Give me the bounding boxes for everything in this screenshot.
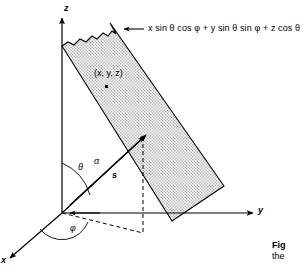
phi-arc: [40, 222, 88, 240]
figure-root: z y x x sin θ cos φ + y sin θ sin φ + z …: [0, 0, 303, 266]
caption-body: the: [272, 251, 286, 262]
x-axis-line: [10, 213, 62, 258]
diagram-canvas: [0, 0, 303, 266]
plane-equation-label: x sin θ cos φ + y sin θ sin φ + z cos θ …: [148, 24, 303, 33]
point-marker: [105, 85, 108, 88]
phi-angle-label: φ: [70, 224, 76, 233]
theta-angle-label: θ: [78, 163, 83, 172]
figure-caption: Fig the: [272, 240, 286, 263]
z-axis-label: z: [64, 4, 69, 13]
point-coordinates-label: (x, y, z): [94, 69, 123, 78]
alpha-vector-label: α: [94, 157, 99, 166]
caption-title: Fig: [272, 240, 286, 251]
x-axis-label: x: [1, 256, 6, 265]
s-magnitude-label: s: [112, 171, 117, 180]
y-axis-label: y: [258, 206, 263, 215]
